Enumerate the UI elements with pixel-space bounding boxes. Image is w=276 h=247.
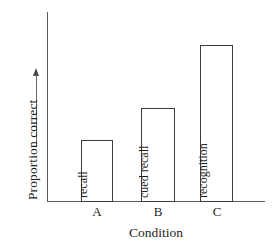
x-tick-label-a: A: [77, 203, 117, 220]
bar-a-inner-label: recall: [76, 171, 90, 198]
bar-b-inner-label: cued recall: [137, 146, 151, 198]
bar-category-a: recall: [81, 140, 113, 202]
bar-category-b: cued recall: [141, 108, 175, 202]
x-tick-label-b: B: [138, 203, 178, 220]
y-axis-line: [47, 12, 48, 202]
x-axis-title: Condition: [47, 224, 265, 242]
y-axis-title: Proportion correct: [22, 30, 44, 200]
x-tick-label-c: C: [197, 203, 237, 220]
bar-c-inner-label: recognition: [196, 143, 210, 198]
bar-c-label-wrap: recognition: [201, 184, 232, 198]
bar-chart-figure: Proportion correct recall cued recall re…: [0, 0, 276, 247]
bar-a-label-wrap: recall: [82, 184, 112, 198]
bar-category-c: recognition: [200, 45, 233, 202]
bar-b-label-wrap: cued recall: [142, 184, 174, 198]
